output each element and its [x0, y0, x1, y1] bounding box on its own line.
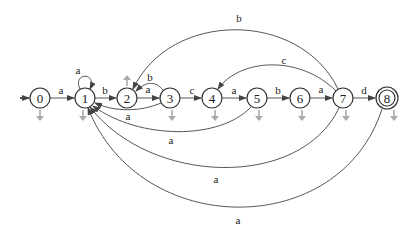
state-2: 2 [117, 88, 137, 108]
state-8-accept: 8 [376, 87, 398, 109]
svg-text:a: a [76, 64, 81, 76]
fail-arrow-7 [342, 110, 350, 121]
state-6: 6 [290, 88, 310, 108]
edge-3-4: c [180, 84, 201, 98]
svg-text:a: a [169, 134, 174, 146]
svg-text:d: d [361, 84, 367, 96]
svg-text:b: b [236, 12, 242, 24]
fail-arrow-0 [36, 110, 44, 121]
edge-7-8: d [353, 84, 375, 98]
state-1: 1 [75, 88, 95, 108]
svg-text:b: b [275, 84, 281, 96]
svg-text:a: a [126, 110, 131, 122]
svg-text:6: 6 [297, 91, 304, 106]
svg-text:1: 1 [82, 91, 89, 106]
svg-text:8: 8 [384, 91, 391, 106]
state-0: 0 [30, 88, 50, 108]
state-4: 4 [202, 88, 222, 108]
svg-text:5: 5 [254, 91, 261, 106]
edge-1-1-loop: a [76, 64, 92, 89]
edge-1-2: b [95, 84, 116, 98]
svg-text:4: 4 [209, 91, 216, 106]
svg-text:b: b [147, 71, 153, 83]
svg-text:c: c [282, 54, 287, 66]
svg-text:a: a [214, 173, 219, 185]
edge-4-5: a [222, 84, 246, 98]
svg-text:0: 0 [37, 91, 44, 106]
edge-6-7: a [310, 83, 332, 98]
svg-text:a: a [146, 83, 151, 95]
svg-text:a: a [236, 214, 241, 226]
svg-text:2: 2 [124, 91, 131, 106]
fail-arrow-1 [79, 110, 87, 121]
svg-text:7: 7 [340, 91, 347, 106]
edge-5-6: b [267, 84, 289, 98]
svg-text:a: a [319, 83, 324, 95]
state-5: 5 [247, 88, 267, 108]
fail-arrow-3 [168, 110, 176, 121]
edge-2-3: a [137, 83, 159, 98]
fail-arrow-6 [298, 110, 306, 121]
state-diagram: a a b a b a c a [0, 0, 420, 241]
fail-arrow-2 [123, 75, 131, 86]
svg-text:3: 3 [167, 91, 174, 106]
svg-text:c: c [190, 84, 195, 96]
fail-arrow-4 [211, 110, 219, 121]
edge-7-2: b [133, 12, 338, 89]
state-7: 7 [333, 88, 353, 108]
edge-0-1: a [50, 84, 74, 98]
fail-arrow-8 [390, 110, 398, 121]
svg-text:a: a [232, 84, 237, 96]
fail-arrow-5 [255, 110, 263, 121]
svg-text:a: a [59, 84, 64, 96]
state-3: 3 [160, 88, 180, 108]
svg-text:b: b [102, 84, 108, 96]
